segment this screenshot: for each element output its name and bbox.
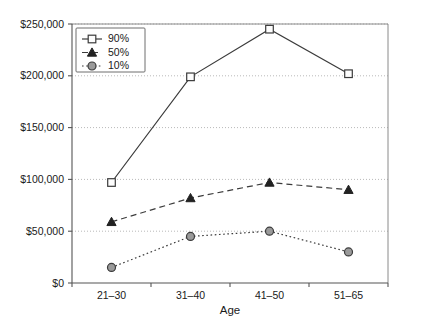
x-tick-label-3: 51–65 (334, 289, 363, 301)
y-tick-label-3: $150,000 (20, 121, 64, 133)
x-tick-label-2: 41–50 (255, 289, 284, 301)
y-tick-label-1: $50,000 (26, 225, 64, 237)
x-axis-title: Age (220, 304, 240, 316)
data-point-0-2 (266, 25, 274, 33)
y-tick-label-0: $0 (52, 277, 64, 289)
data-point-2-1 (187, 232, 195, 240)
line-chart: $0$50,000$100,000$150,000$200,000$250,00… (0, 0, 425, 324)
chart-background (0, 0, 425, 324)
legend-label-0: 90% (108, 32, 129, 44)
legend-label-2: 10% (108, 59, 129, 71)
data-point-0-3 (345, 70, 353, 78)
y-tick-label-5: $250,000 (20, 18, 64, 30)
chart-legend: 90%50%10% (76, 28, 145, 72)
legend-label-1: 50% (108, 46, 129, 58)
x-tick-label-0: 21–30 (97, 289, 126, 301)
legend-marker-0 (88, 35, 96, 43)
y-tick-label-2: $100,000 (20, 173, 64, 185)
y-tick-label-4: $200,000 (20, 69, 64, 81)
legend-marker-2 (88, 62, 96, 70)
data-point-2-2 (266, 227, 274, 235)
chart-canvas: $0$50,000$100,000$150,000$200,000$250,00… (0, 0, 425, 324)
data-point-0-0 (108, 179, 116, 187)
data-point-2-0 (108, 263, 116, 271)
data-point-2-3 (345, 248, 353, 256)
data-point-0-1 (187, 73, 195, 81)
x-tick-label-1: 31–40 (176, 289, 205, 301)
